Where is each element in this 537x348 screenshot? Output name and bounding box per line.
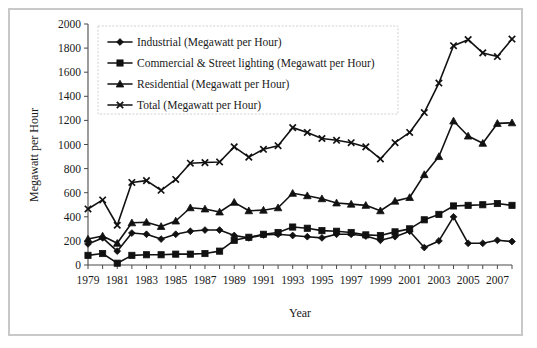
marker-diamond	[304, 233, 311, 240]
x-tick-label: 1983	[135, 274, 158, 286]
marker-square	[202, 250, 208, 256]
marker-diamond	[172, 231, 179, 238]
y-tick-label: 1600	[58, 66, 81, 78]
marker-square	[100, 250, 106, 256]
legend-label-3: Total (Megawatt per Hour)	[137, 99, 261, 112]
marker-square	[465, 202, 471, 208]
series-line	[88, 217, 512, 251]
x-tick-label: 2003	[427, 274, 450, 286]
marker-square	[129, 252, 135, 258]
marker-square	[260, 231, 266, 237]
marker-triangle	[450, 117, 458, 124]
marker-triangle	[99, 232, 107, 239]
marker-square	[173, 251, 179, 257]
marker-triangle	[289, 190, 297, 197]
x-tick-label: 1985	[164, 274, 187, 286]
marker-square	[436, 211, 442, 217]
chart-legend: Industrial (Megawatt per Hour)Commercial…	[98, 26, 398, 114]
y-tick-label: 2000	[58, 18, 81, 30]
marker-diamond	[465, 240, 472, 247]
x-tick-label: 2001	[398, 274, 421, 286]
marker-square	[480, 202, 486, 208]
x-tick-label: 1991	[252, 274, 275, 286]
marker-square	[231, 237, 237, 243]
y-tick-label: 1800	[58, 42, 81, 54]
x-tick-label: 2005	[457, 274, 480, 286]
marker-square	[494, 200, 500, 206]
marker-triangle	[435, 153, 443, 160]
marker-square	[143, 252, 149, 258]
marker-square	[319, 228, 325, 234]
x-tick-label: 1981	[106, 274, 129, 286]
marker-diamond	[319, 234, 326, 241]
marker-square	[187, 251, 193, 257]
marker-diamond	[143, 231, 150, 238]
marker-square	[348, 229, 354, 235]
y-tick-label: 400	[64, 211, 82, 223]
marker-square	[290, 224, 296, 230]
y-tick-label: 600	[64, 187, 82, 199]
marker-diamond	[450, 213, 457, 220]
y-tick-label: 800	[64, 163, 82, 175]
marker-diamond	[509, 238, 516, 245]
marker-square	[377, 232, 383, 238]
marker-square	[158, 252, 164, 258]
marker-square	[421, 217, 427, 223]
marker-diamond	[289, 232, 296, 239]
x-tick-label: 1995	[310, 274, 333, 286]
marker-square	[85, 252, 91, 258]
legend-label-1: Commercial & Street lighting (Megawatt p…	[137, 57, 375, 70]
y-axis-ticks: 0200400600800100012001400160018002000	[58, 18, 88, 271]
marker-diamond	[494, 237, 501, 244]
marker-square	[333, 228, 339, 234]
marker-diamond	[216, 227, 223, 234]
marker-square	[117, 60, 123, 66]
marker-square	[275, 229, 281, 235]
marker-diamond	[158, 236, 165, 243]
marker-square	[509, 202, 515, 208]
x-tick-label: 1993	[281, 274, 304, 286]
series-0	[85, 213, 516, 254]
y-axis-title: Megawatt per Hour	[27, 108, 41, 202]
x-tick-label: 1999	[369, 274, 392, 286]
marker-square	[304, 225, 310, 231]
x-tick-label: 2007	[486, 274, 509, 286]
marker-square	[450, 203, 456, 209]
x-axis-ticks: 1979198119831985198719891991199319951997…	[77, 265, 513, 286]
x-tick-label: 1997	[340, 274, 363, 286]
marker-square	[216, 248, 222, 254]
series-line	[88, 204, 512, 264]
y-tick-label: 0	[75, 259, 81, 271]
x-axis-title: Year	[289, 306, 311, 320]
x-tick-label: 1979	[77, 274, 100, 286]
marker-diamond	[202, 227, 209, 234]
marker-diamond	[479, 240, 486, 247]
x-tick-label: 1989	[223, 274, 246, 286]
legend-label-2: Residential (Megawatt per Hour)	[137, 78, 289, 91]
y-tick-label: 1000	[58, 139, 81, 151]
x-tick-label: 1987	[193, 274, 216, 286]
marker-square	[363, 232, 369, 238]
y-tick-label: 1200	[58, 114, 81, 126]
marker-triangle	[230, 199, 238, 206]
line-chart: 0200400600800100012001400160018002000 19…	[0, 0, 537, 348]
legend-label-0: Industrial (Megawatt per Hour)	[137, 36, 282, 49]
y-tick-label: 200	[64, 235, 82, 247]
marker-square	[407, 226, 413, 232]
marker-square	[114, 260, 120, 266]
marker-square	[246, 234, 252, 240]
y-tick-label: 1400	[58, 90, 81, 102]
marker-square	[392, 229, 398, 235]
marker-diamond	[187, 228, 194, 235]
